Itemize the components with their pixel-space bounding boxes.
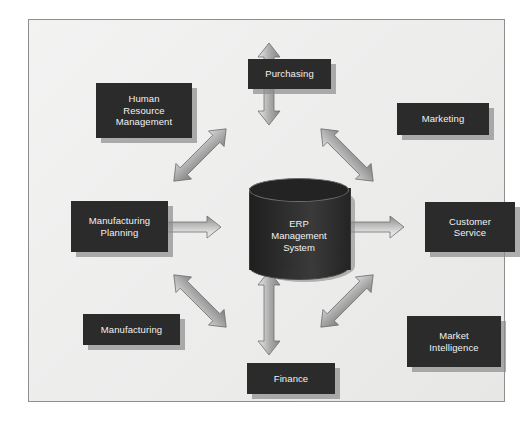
module-box-market-intelligence[interactable]: Market Intelligence	[407, 316, 501, 367]
erp-core-label: ERP Management System	[249, 206, 349, 266]
module-box-manufacturing[interactable]: Manufacturing	[83, 314, 180, 345]
module-box-finance[interactable]: Finance	[247, 363, 335, 394]
module-box-human-resource-management[interactable]: Human Resource Management	[96, 83, 192, 138]
module-box-marketing[interactable]: Marketing	[397, 103, 489, 135]
module-box-purchasing[interactable]: Purchasing	[248, 59, 331, 89]
module-label-human-resource-management: Human Resource Management	[116, 93, 172, 128]
connector-arrow-finance	[255, 270, 283, 356]
module-label-finance: Finance	[274, 373, 309, 385]
module-label-market-intelligence: Market Intelligence	[429, 330, 478, 353]
diagram-canvas: ERP Management System Purchasing Human R…	[28, 19, 505, 402]
module-label-manufacturing-planning: Manufacturing Planning	[89, 215, 151, 238]
erp-diagram: ERP Management System Purchasing Human R…	[0, 0, 530, 424]
cylinder-top-ellipse	[249, 178, 349, 202]
erp-core-node[interactable]: ERP Management System	[249, 178, 349, 280]
module-box-manufacturing-planning[interactable]: Manufacturing Planning	[71, 201, 168, 252]
module-label-marketing: Marketing	[422, 113, 465, 125]
module-box-customer-service[interactable]: Customer Service	[425, 202, 515, 252]
module-label-manufacturing: Manufacturing	[101, 324, 163, 336]
module-label-purchasing: Purchasing	[265, 68, 314, 80]
module-label-customer-service: Customer Service	[449, 216, 491, 239]
